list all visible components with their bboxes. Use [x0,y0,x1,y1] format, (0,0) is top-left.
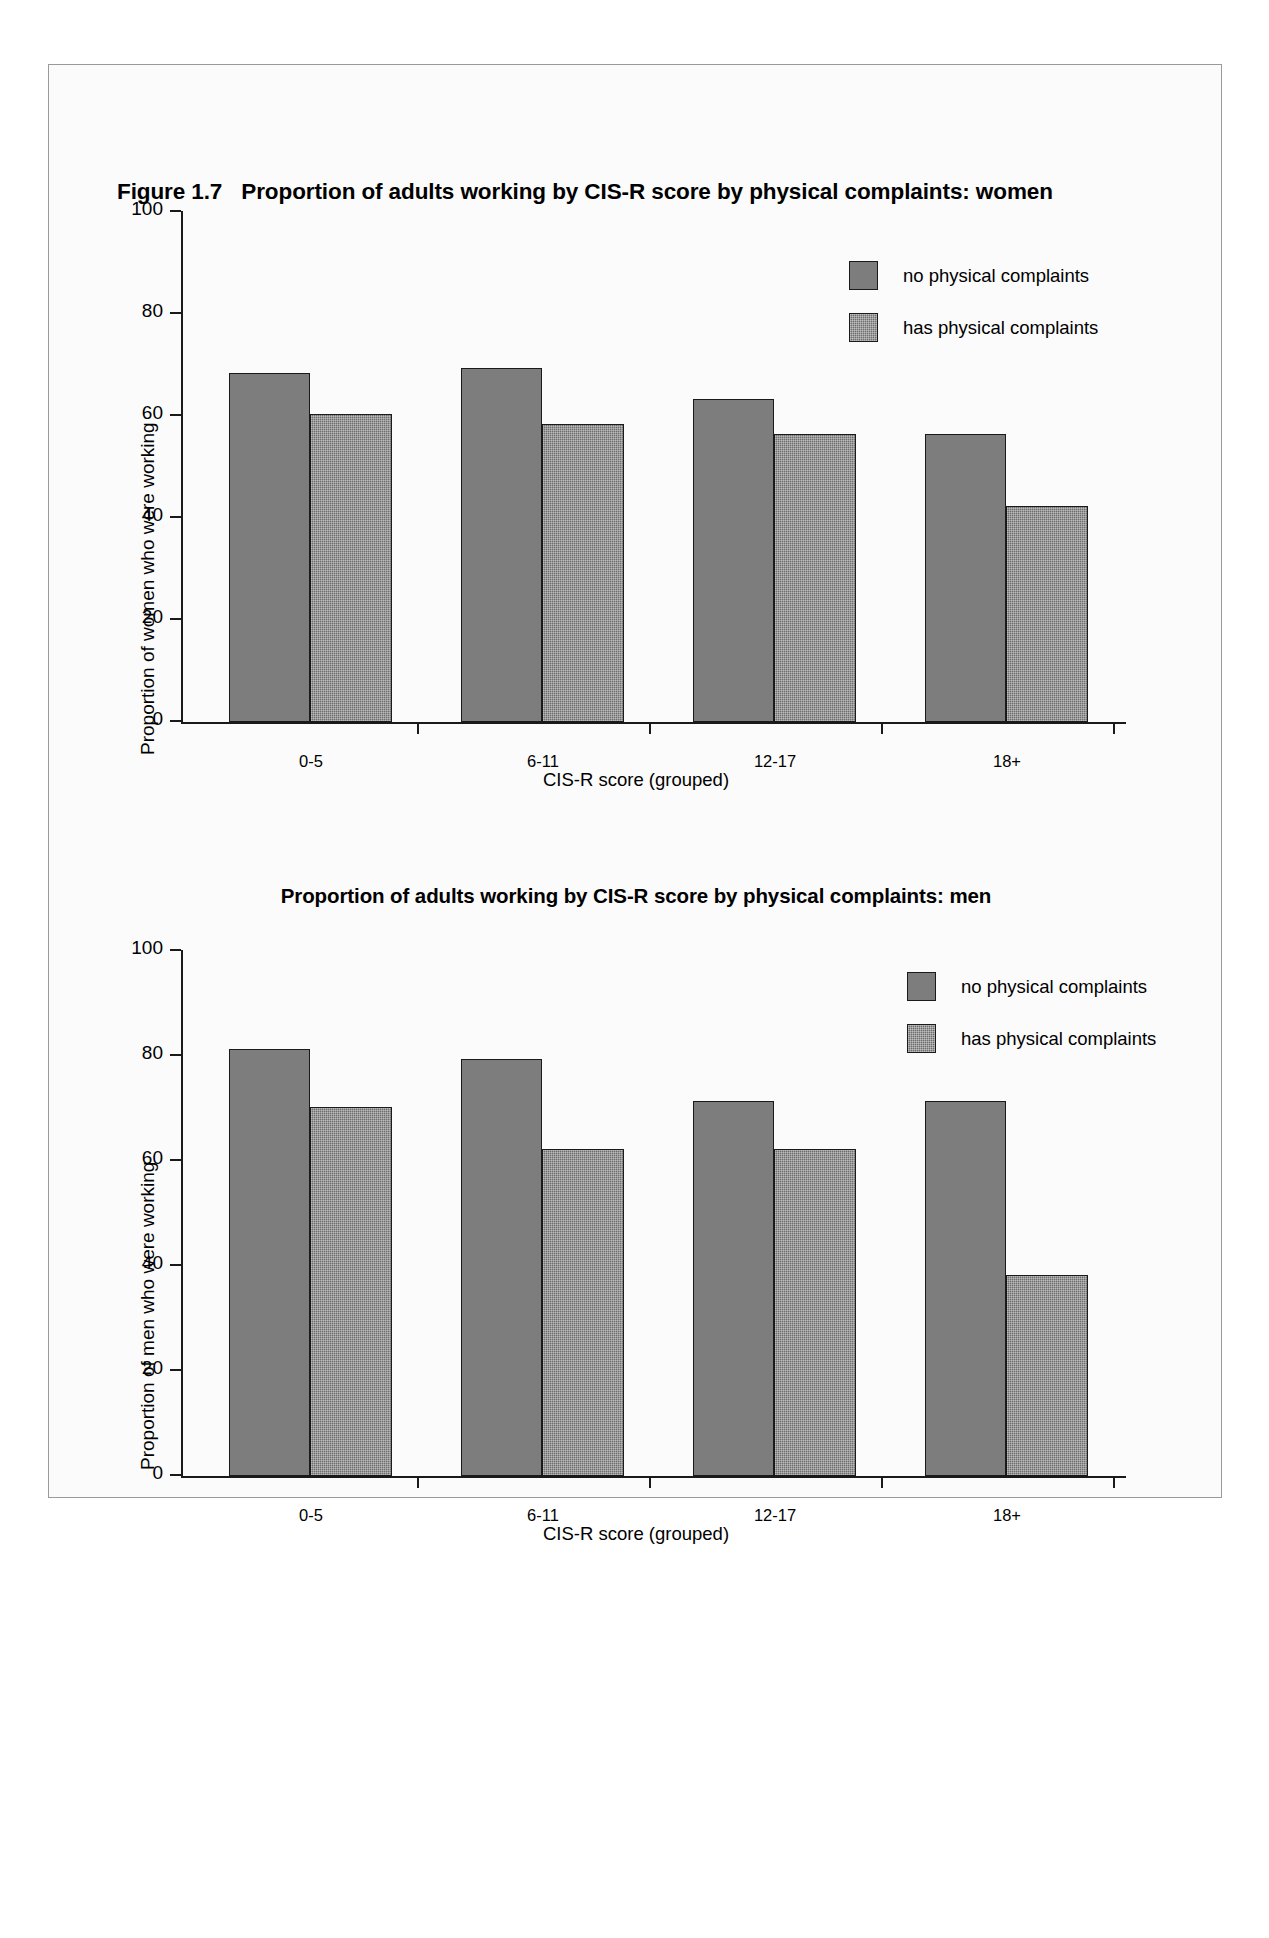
legend-item-no-physical-complaints: no physical complaints [907,972,1156,1001]
bar-men-18plus-no [925,1101,1006,1476]
y-tick-60: 60 [170,414,181,416]
legend-men: no physical complaints has physical comp… [907,972,1156,1076]
legend-swatch-icon-has-physical [907,1024,936,1053]
x-tick-men-1: 6-11 [649,1478,651,1488]
legend-label-has-physical: has physical complaints [903,318,1098,338]
y-tick-100: 100 [170,949,181,951]
y-tick-100: 100 [170,210,181,212]
chart-men-title: Proportion of adults working by CIS-R sc… [49,884,1223,908]
bar-women-6-11-no [461,368,542,722]
bar-women-12-17-no [693,399,774,722]
y-tick-80: 80 [170,1054,181,1056]
figure-frame: Figure 1.7Proportion of adults working b… [48,64,1222,1498]
legend-item-has-physical-complaints: has physical complaints [849,313,1098,342]
x-tick-men-0: 0-5 [417,1478,419,1488]
bar-men-18plus-has [1006,1275,1088,1476]
x-axis-title-women: CIS-R score (grouped) [49,769,1223,791]
x-tick-women-2: 12-17 [881,724,883,734]
x-tick-women-1: 6-11 [649,724,651,734]
y-tick-40: 40 [170,516,181,518]
bar-women-12-17-has [774,434,856,722]
bar-women-0-5-no [229,373,310,722]
y-axis-line [181,950,183,1478]
x-tick-women-3: 18+ [1113,724,1115,734]
bar-men-12-17-has [774,1149,856,1476]
y-tick-label-60: 60 [142,403,163,423]
bar-men-0-5-has [310,1107,392,1476]
y-tick-20: 20 [170,1369,181,1371]
y-tick-label-20: 20 [142,1358,163,1378]
x-axis-line [181,722,1126,724]
bar-women-18plus-no [925,434,1006,722]
y-tick-60: 60 [170,1159,181,1161]
y-tick-label-0: 0 [152,1463,163,1483]
x-tick-women-0: 0-5 [417,724,419,734]
legend-swatch-icon-no-physical [907,972,936,1001]
y-tick-20: 20 [170,618,181,620]
legend-label-has-physical: has physical complaints [961,1029,1156,1049]
y-tick-label-40: 40 [142,1253,163,1273]
y-tick-label-40: 40 [142,505,163,525]
y-tick-label-80: 80 [142,301,163,321]
bar-women-6-11-has [542,424,624,722]
y-tick-label-80: 80 [142,1043,163,1063]
y-tick-label-100: 100 [131,938,163,958]
y-axis-title-women: Proportion of women who were working [137,422,159,755]
y-axis-title-men: Proportion of men who were working [137,1162,159,1470]
y-tick-label-20: 20 [142,607,163,627]
legend-label-no-physical: no physical complaints [961,977,1147,997]
chart-men: Proportion of men who were working 0 20 … [49,910,1223,1495]
y-tick-80: 80 [170,312,181,314]
x-axis-line [181,1476,1126,1478]
x-axis-title-men: CIS-R score (grouped) [49,1523,1223,1545]
legend-label-no-physical: no physical complaints [903,266,1089,286]
legend-swatch-icon-no-physical [849,261,878,290]
legend-item-has-physical-complaints: has physical complaints [907,1024,1156,1053]
y-axis-line [181,211,183,724]
legend-women: no physical complaints has physical comp… [849,261,1098,365]
y-tick-0: 0 [170,1474,181,1476]
bar-men-12-17-no [693,1101,774,1476]
x-tick-men-2: 12-17 [881,1478,883,1488]
y-tick-40: 40 [170,1264,181,1266]
y-tick-0: 0 [170,720,181,722]
bar-women-0-5-has [310,414,392,722]
y-tick-label-100: 100 [131,199,163,219]
legend-swatch-icon-has-physical [849,313,878,342]
y-tick-label-60: 60 [142,1148,163,1168]
x-tick-men-3: 18+ [1113,1478,1115,1488]
bar-men-6-11-no [461,1059,542,1476]
bar-men-6-11-has [542,1149,624,1476]
bar-men-0-5-no [229,1049,310,1476]
bar-women-18plus-has [1006,506,1088,722]
legend-item-no-physical-complaints: no physical complaints [849,261,1098,290]
y-tick-label-0: 0 [152,709,163,729]
chart-women: Proportion of women who were working 0 2… [49,155,1223,855]
